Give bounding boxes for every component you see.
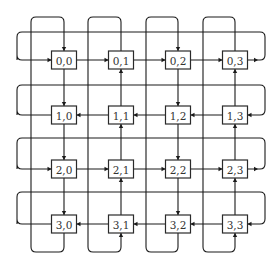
arrow-into-2-2 xyxy=(162,167,166,171)
node-label: 0,3 xyxy=(227,55,244,67)
node-label: 0,2 xyxy=(170,55,187,67)
arrow-into-1-1 xyxy=(134,113,138,117)
node-3-3: 3,3 xyxy=(223,215,248,233)
arrow-into-col-3-3 xyxy=(233,233,237,237)
arrow-into-0-3 xyxy=(219,58,223,62)
node-label: 0,0 xyxy=(56,55,73,67)
node-2-2: 2,2 xyxy=(166,160,191,178)
arrow-into-3-3 xyxy=(248,222,252,226)
arrow-into-col-2-3 xyxy=(233,178,237,182)
node-2-1: 2,1 xyxy=(109,160,134,178)
node-3-2: 3,2 xyxy=(166,215,191,233)
node-1-0: 1,0 xyxy=(52,106,77,124)
node-label: 2,3 xyxy=(227,164,244,176)
arrow-into-col-2-2 xyxy=(176,156,180,160)
node-label: 1,3 xyxy=(227,110,244,122)
torus-network-diagram: 0,00,10,20,31,01,11,21,32,02,12,22,33,03… xyxy=(0,0,278,268)
node-3-1: 3,1 xyxy=(109,215,134,233)
node-label: 1,2 xyxy=(170,110,187,122)
nodes: 0,00,10,20,31,01,11,21,32,02,12,22,33,03… xyxy=(52,51,248,233)
node-0-0: 0,0 xyxy=(52,51,77,69)
arrow-into-1-2 xyxy=(191,113,195,117)
node-0-1: 0,1 xyxy=(109,51,134,69)
node-1-1: 1,1 xyxy=(109,106,134,124)
node-label: 1,0 xyxy=(56,110,73,122)
arrow-into-col-3-0 xyxy=(62,211,66,215)
arrow-into-1-3 xyxy=(248,113,252,117)
node-1-2: 1,2 xyxy=(166,106,191,124)
node-label: 2,2 xyxy=(170,164,187,176)
node-2-0: 2,0 xyxy=(52,160,77,178)
node-3-0: 3,0 xyxy=(52,215,77,233)
arrow-into-col-3-2 xyxy=(176,211,180,215)
arrow-row-2-wrap xyxy=(254,167,258,171)
node-label: 3,2 xyxy=(170,219,187,231)
node-label: 3,1 xyxy=(113,219,130,231)
node-label: 3,0 xyxy=(56,219,73,231)
arrow-row-0-wrap xyxy=(254,58,258,62)
node-label: 0,1 xyxy=(113,55,130,67)
node-label: 2,1 xyxy=(113,164,130,176)
arrow-into-2-3 xyxy=(219,167,223,171)
arrow-into-col-2-1 xyxy=(119,178,123,182)
arrow-into-3-2 xyxy=(191,222,195,226)
node-0-3: 0,3 xyxy=(223,51,248,69)
node-label: 3,3 xyxy=(227,219,244,231)
arrow-into-col-2-0 xyxy=(62,156,66,160)
node-2-3: 2,3 xyxy=(223,160,248,178)
arrow-into-3-1 xyxy=(134,222,138,226)
arrow-into-0-2 xyxy=(162,58,166,62)
node-1-3: 1,3 xyxy=(223,106,248,124)
node-label: 2,0 xyxy=(56,164,73,176)
arrow-into-col-3-1 xyxy=(119,233,123,237)
node-label: 1,1 xyxy=(113,110,130,122)
node-0-2: 0,2 xyxy=(166,51,191,69)
arrowheads xyxy=(48,47,259,237)
